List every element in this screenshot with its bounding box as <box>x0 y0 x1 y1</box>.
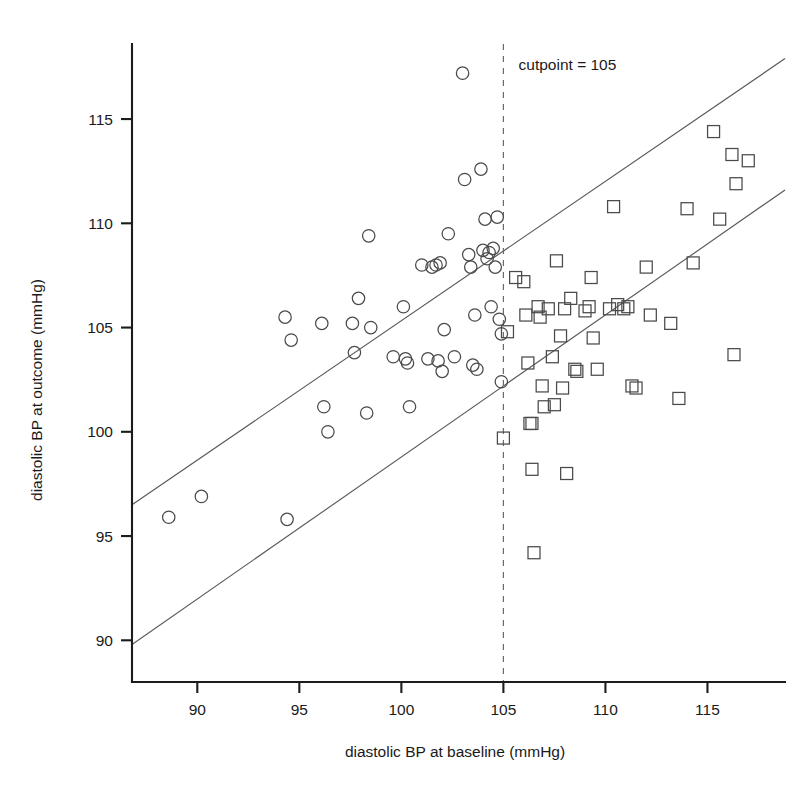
data-point-circle <box>346 317 358 329</box>
data-point-square <box>518 276 530 288</box>
data-point-circle <box>363 230 375 242</box>
data-point-circle <box>399 353 411 365</box>
axes-group <box>132 44 785 682</box>
data-point-square <box>555 330 567 342</box>
data-point-square <box>665 317 677 329</box>
y-tick-label-100: 100 <box>87 423 113 440</box>
y-tick-label-105: 105 <box>87 319 113 336</box>
data-point-circle <box>403 401 415 413</box>
cutpoint-annotation: cutpoint = 105 <box>519 56 617 73</box>
data-point-square <box>742 155 754 167</box>
data-point-circle <box>438 323 450 335</box>
data-point-square <box>673 392 685 404</box>
data-point-square <box>730 178 742 190</box>
x-tick-label-95: 95 <box>291 701 308 718</box>
upper-reference-line <box>132 59 785 505</box>
data-point-square <box>561 468 573 480</box>
data-point-circle <box>285 334 297 346</box>
data-point-circle <box>448 351 460 363</box>
data-point-circle <box>458 173 470 185</box>
plot-canvas: 9095100105110115 9095100105110115 cutpoi… <box>0 0 809 793</box>
data-point-square <box>728 349 740 361</box>
data-point-circle <box>316 317 328 329</box>
data-point-circle <box>442 228 454 240</box>
data-point-circle <box>479 213 491 225</box>
data-point-square <box>608 201 620 213</box>
data-point-square <box>528 547 540 559</box>
data-point-circle <box>279 311 291 323</box>
data-point-square <box>585 272 597 284</box>
data-point-square <box>726 149 738 161</box>
data-point-square <box>687 257 699 269</box>
x-axis-ticks: 9095100105110115 <box>189 682 720 718</box>
data-point-square <box>536 380 548 392</box>
x-axis-title: diastolic BP at baseline (mmHg) <box>345 743 565 760</box>
data-point-circle <box>493 313 505 325</box>
data-point-circle <box>485 301 497 313</box>
y-axis-ticks: 9095100105110115 <box>87 111 132 649</box>
data-point-circle <box>491 211 503 223</box>
data-point-circle <box>318 401 330 413</box>
data-point-circle <box>397 301 409 313</box>
data-point-square <box>522 357 534 369</box>
data-point-circle <box>489 261 501 273</box>
data-point-square <box>587 332 599 344</box>
data-point-circle <box>163 511 175 523</box>
data-point-square <box>520 309 532 321</box>
y-tick-label-95: 95 <box>96 528 113 545</box>
data-point-square <box>714 213 726 225</box>
y-tick-label-90: 90 <box>96 632 114 649</box>
data-point-circle <box>365 321 377 333</box>
data-point-square <box>510 272 522 284</box>
x-tick-label-110: 110 <box>593 701 618 718</box>
x-tick-label-105: 105 <box>490 701 516 718</box>
data-point-square <box>644 309 656 321</box>
data-point-square <box>681 203 693 215</box>
data-point-square <box>579 305 591 317</box>
data-point-circle <box>495 376 507 388</box>
data-point-circle <box>463 248 475 260</box>
data-point-circle <box>322 426 334 438</box>
data-point-square <box>591 363 603 375</box>
x-tick-label-90: 90 <box>189 701 207 718</box>
data-point-square <box>557 382 569 394</box>
data-point-circle <box>436 365 448 377</box>
data-point-square <box>526 463 538 475</box>
x-tick-label-115: 115 <box>695 701 720 718</box>
data-point-circle <box>465 261 477 273</box>
annotations-group: cutpoint = 105 <box>519 56 617 73</box>
data-point-square <box>583 301 595 313</box>
x-tick-label-100: 100 <box>388 701 414 718</box>
data-point-square <box>550 255 562 267</box>
scatter-plot-figure: 9095100105110115 9095100105110115 cutpoi… <box>0 0 809 793</box>
data-point-circle <box>360 407 372 419</box>
series-square <box>497 126 754 559</box>
data-point-circle <box>475 163 487 175</box>
data-point-square <box>640 261 652 273</box>
data-point-circle <box>387 351 399 363</box>
data-point-circle <box>281 513 293 525</box>
data-point-square <box>708 126 720 138</box>
data-point-circle <box>195 490 207 502</box>
data-point-circle <box>352 292 364 304</box>
data-point-circle <box>469 309 481 321</box>
y-tick-label-115: 115 <box>88 111 113 128</box>
series-circle <box>163 67 508 526</box>
y-tick-label-110: 110 <box>88 215 113 232</box>
y-axis-title: diastolic BP at outcome (mmHg) <box>28 279 45 501</box>
data-point-circle <box>456 67 468 79</box>
